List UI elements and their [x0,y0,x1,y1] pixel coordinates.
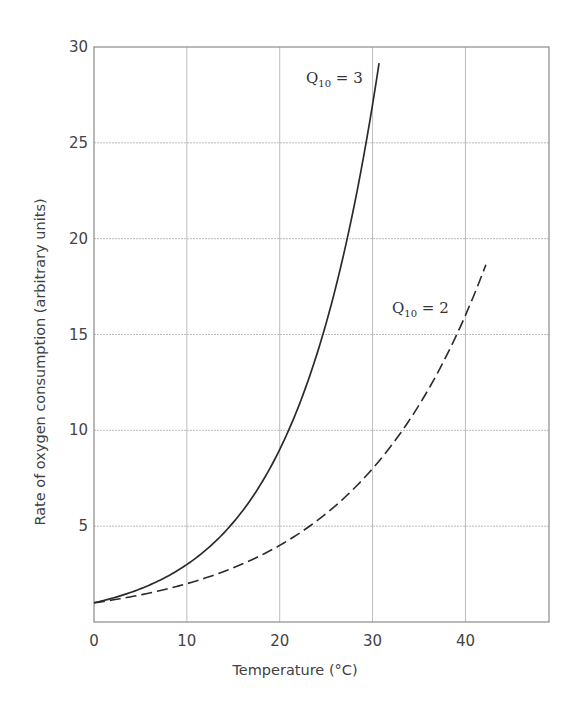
curve-label-q10-2-rest: = 2 [417,299,449,317]
y-tick-label: 5 [78,517,88,535]
x-tick-label: 30 [363,632,382,650]
y-axis-ticks: 51015202530 [69,38,88,535]
y-tick-label: 10 [69,421,88,439]
curve-label-q10-3: Q10 = 3 [306,69,363,89]
curves [94,63,486,603]
curve-label-q10-2: Q10 = 2 [392,299,449,319]
x-tick-label: 10 [177,632,196,650]
curve-label-q10-3-main: Q [306,69,318,87]
y-tick-label: 20 [69,230,88,248]
curve-q10-3-solid [94,63,379,603]
grid-lines [94,47,549,622]
plot-frame [94,47,549,622]
x-axis-title: Temperature (°C) [231,662,357,678]
y-tick-label: 25 [69,134,88,152]
axes [94,47,549,622]
curve-label-q10-2-sub: 10 [404,308,417,319]
y-axis-title: Rate of oxygen consumption (arbitrary un… [32,198,48,525]
svg-text:Q10 = 2: Q10 = 2 [392,299,449,319]
x-tick-label: 0 [89,632,99,650]
svg-text:Q10 = 3: Q10 = 3 [306,69,363,89]
x-tick-label: 20 [270,632,289,650]
curve-label-q10-3-rest: = 3 [331,69,363,87]
curve-label-q10-3-sub: 10 [318,78,331,89]
chart: 010203040 51015202530 Temperature (°C) R… [0,0,574,703]
x-axis-ticks: 010203040 [89,632,475,650]
y-tick-label: 15 [69,326,88,344]
y-tick-label: 30 [69,38,88,56]
x-tick-label: 40 [456,632,475,650]
curve-label-q10-2-main: Q [392,299,404,317]
